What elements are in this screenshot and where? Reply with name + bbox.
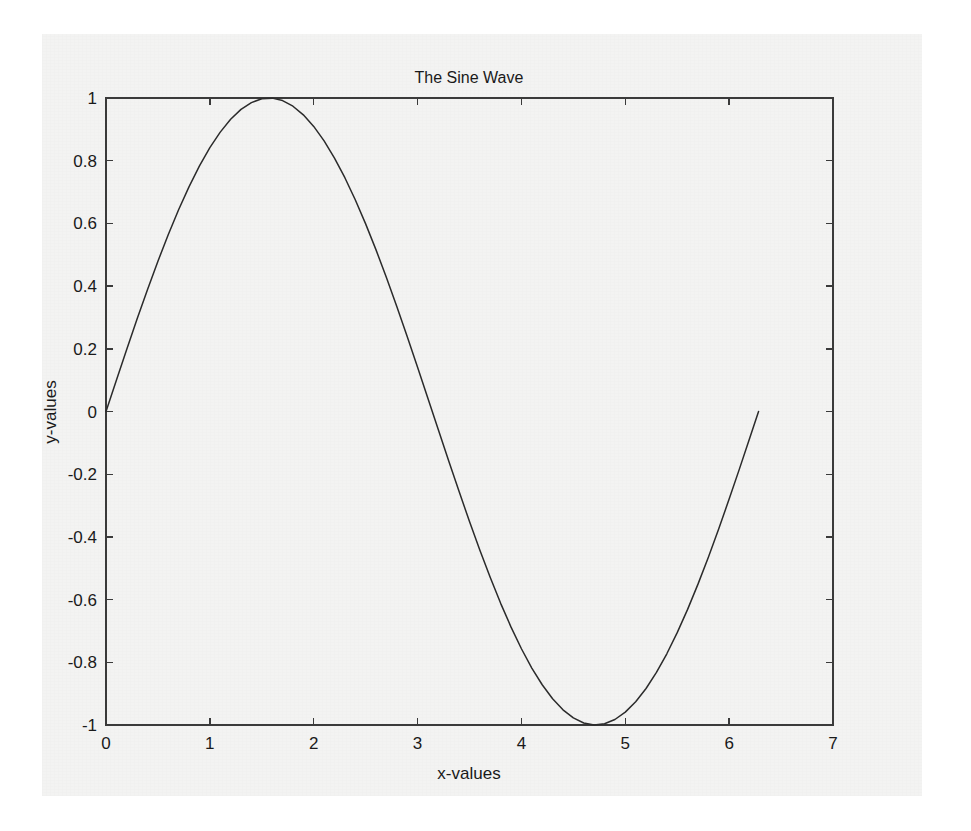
x-tick-label: 6	[724, 734, 733, 753]
x-tick-label: 4	[517, 734, 526, 753]
y-axis-ticks: -1-0.8-0.6-0.4-0.200.20.40.60.81	[68, 89, 833, 735]
y-tick-label: 0.2	[73, 340, 97, 359]
y-tick-label: -0.2	[68, 465, 97, 484]
y-tick-label: 0.8	[73, 152, 97, 171]
y-tick-label: 1	[88, 89, 97, 108]
y-tick-label: -0.4	[68, 528, 97, 547]
y-tick-label: 0.4	[73, 277, 97, 296]
x-tick-label: 5	[621, 734, 630, 753]
x-tick-label: 7	[828, 734, 837, 753]
figure-page: The Sine Wave 01234567 -1-0.8-0.6-0.4-0.…	[0, 0, 971, 831]
x-tick-label: 1	[205, 734, 214, 753]
sine-series-line	[106, 98, 759, 725]
y-tick-label: 0.6	[73, 214, 97, 233]
y-tick-label: 0	[88, 403, 97, 422]
y-tick-label: -1	[82, 716, 97, 735]
chart-title: The Sine Wave	[415, 69, 524, 86]
plot-axes-frame	[106, 98, 833, 725]
y-axis-title: y-values	[41, 380, 60, 443]
x-tick-label: 2	[309, 734, 318, 753]
y-tick-label: -0.6	[68, 591, 97, 610]
x-axis-ticks: 01234567	[101, 98, 837, 753]
sine-wave-plot: The Sine Wave 01234567 -1-0.8-0.6-0.4-0.…	[0, 0, 971, 831]
x-axis-title: x-values	[437, 764, 500, 783]
y-tick-label: -0.8	[68, 653, 97, 672]
x-tick-label: 3	[413, 734, 422, 753]
x-tick-label: 0	[101, 734, 110, 753]
